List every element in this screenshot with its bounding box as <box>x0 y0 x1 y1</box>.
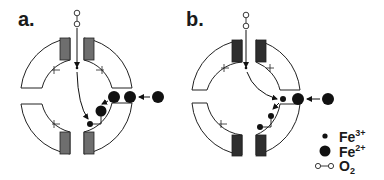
legend-fe2-charge: 2+ <box>355 143 365 153</box>
legend-o2-symbol <box>315 163 320 168</box>
fe3-ion <box>280 96 286 102</box>
fe3-ion <box>87 121 93 127</box>
legend-fe2-symbol <box>320 146 331 157</box>
panel-a-o2-molecule <box>74 10 80 27</box>
legend-o2-species: O <box>339 158 350 174</box>
legend-fe3-symbol <box>322 133 327 138</box>
channel-block-top-left <box>60 38 70 60</box>
fe2-ion <box>152 91 164 103</box>
channel-block-bottom-left <box>60 132 70 154</box>
fe2-ion <box>124 91 136 103</box>
legend-o2-label: O2 <box>339 158 355 176</box>
fe3-ion <box>268 113 274 119</box>
channel-block-bottom-right <box>84 132 94 154</box>
channel-block-top-right <box>84 38 94 60</box>
legend-symbols <box>315 133 333 168</box>
fe3-ion <box>257 124 263 130</box>
legend-o2-subscript: 2 <box>350 166 355 176</box>
legend-fe3-charge: 3+ <box>355 128 365 138</box>
panel-label-a: a. <box>18 8 35 31</box>
panel-label-b: b. <box>186 8 204 31</box>
panel-b-o2-molecule <box>243 12 249 29</box>
fe2-ion <box>292 93 304 105</box>
fe2-ion <box>108 91 120 103</box>
fe2-ion <box>96 106 107 117</box>
fe2-ion <box>322 93 334 105</box>
